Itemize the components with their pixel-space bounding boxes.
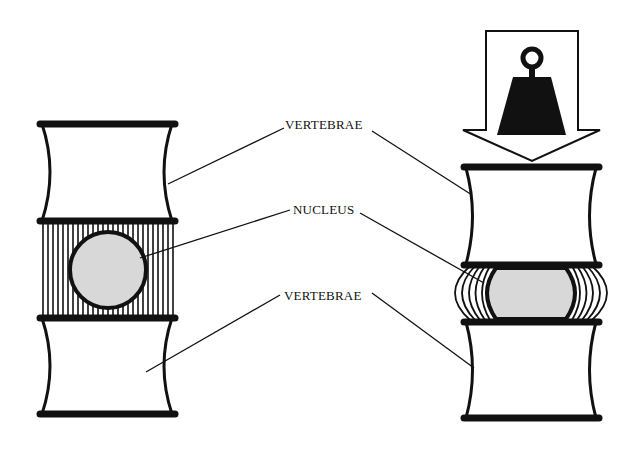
left-nucleus [70,232,146,308]
label-vertebrae-top: VERTEBRAE [285,117,363,132]
right-upper-vertebra [466,168,596,264]
left-upper-vertebra [42,124,172,221]
leader-lines [140,128,484,372]
right-lower-vertebra [466,322,596,418]
disc-load-diagram: VERTEBRAE NUCLEUS VERTEBRAE [0,0,641,452]
label-nucleus: NUCLEUS [293,202,354,217]
right-nucleus-flattened [487,268,575,319]
left-spine-segment [40,124,175,414]
left-lower-vertebra [42,318,172,414]
label-vertebrae-bottom: VERTEBRAE [284,288,362,303]
right-spine-segment [455,31,607,418]
